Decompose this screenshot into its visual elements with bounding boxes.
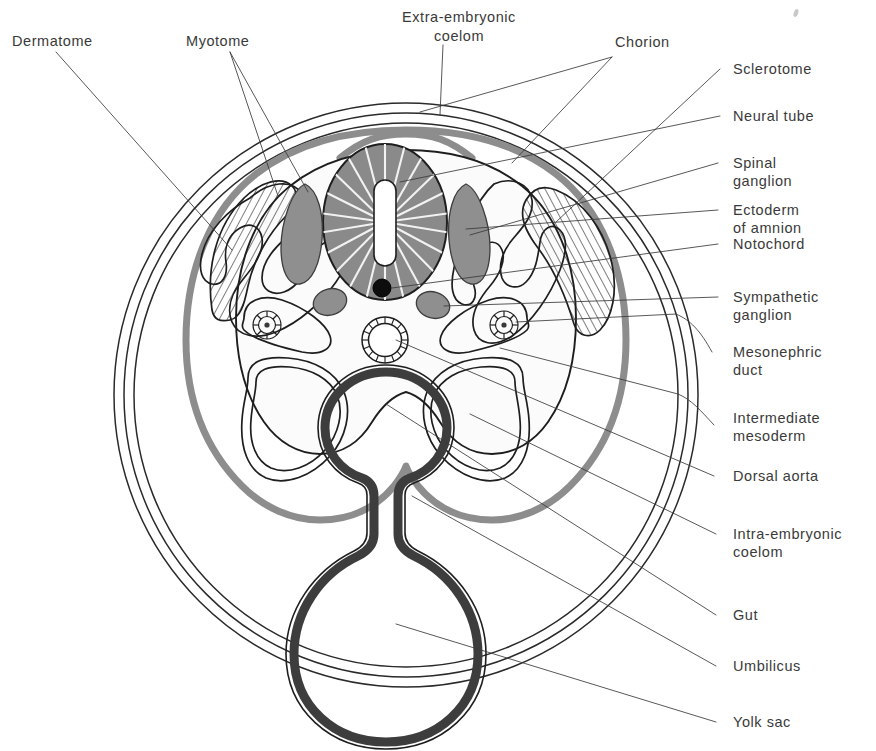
label-intra-embryonic-coelom-line1: Intra-embryonic	[733, 526, 842, 542]
label-intermediate-mesoderm-line2: mesoderm	[733, 428, 806, 444]
label-extra-embryonic-coelom-line2: coelom	[434, 28, 484, 44]
label-yolk-sac: Yolk sac	[733, 714, 791, 730]
dorsal-aorta	[362, 317, 408, 363]
neural-canal-lumen	[374, 180, 396, 266]
mesonephric-duct-right	[490, 311, 518, 339]
label-ectoderm-of-amnion-line1: Ectoderm	[733, 202, 799, 218]
label-dorsal-aorta: Dorsal aorta	[733, 468, 819, 484]
label-sympathetic-ganglion-line1: Sympathetic	[733, 289, 819, 305]
label-notochord: Notochord	[733, 236, 805, 252]
diagram-canvas: Dermatome Myotome Extra-embryonic coelom…	[0, 0, 876, 751]
embryo-cross-section-figure: Dermatome Myotome Extra-embryonic coelom…	[0, 0, 876, 751]
label-spinal-ganglion-line2: ganglion	[733, 173, 792, 189]
label-dermatome: Dermatome	[12, 33, 93, 49]
label-gut: Gut	[733, 607, 758, 623]
label-neural-tube: Neural tube	[733, 108, 814, 124]
label-spinal-ganglion-line1: Spinal	[733, 155, 777, 171]
notochord	[373, 279, 391, 297]
label-intra-embryonic-coelom-line2: coelom	[733, 544, 783, 560]
mesonephric-duct-left	[253, 311, 281, 339]
label-mesonephric-duct-line2: duct	[733, 362, 763, 378]
label-sympathetic-ganglion-line2: ganglion	[733, 307, 792, 323]
label-umbilicus: Umbilicus	[733, 658, 801, 674]
label-ectoderm-of-amnion-line2: of amnion	[733, 220, 802, 236]
label-mesonephric-duct-line1: Mesonephric	[733, 344, 822, 360]
label-chorion: Chorion	[615, 34, 670, 50]
label-myotome: Myotome	[186, 33, 249, 49]
label-sclerotome: Sclerotome	[733, 61, 812, 77]
label-intermediate-mesoderm-line1: Intermediate	[733, 410, 820, 426]
label-extra-embryonic-coelom-line1: Extra-embryonic	[402, 9, 516, 25]
